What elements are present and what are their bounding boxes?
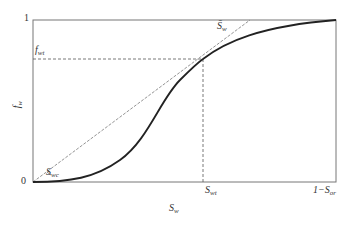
sor-prefix: 1−S xyxy=(313,184,330,195)
swc-label: Swc xyxy=(46,166,59,179)
sw-sub: w xyxy=(174,207,179,215)
swt-sub: wt xyxy=(210,189,217,197)
sw-bar-label: S̄w xyxy=(217,20,227,33)
swt-label: Swt xyxy=(205,184,217,197)
fw-sub: w xyxy=(16,101,24,106)
y-tick-zero: 0 xyxy=(21,175,26,186)
y-axis-label: fw xyxy=(11,101,24,108)
x-axis-label: Sw xyxy=(169,202,179,215)
y-tick-one: 1 xyxy=(24,12,29,23)
swbar-sub: w xyxy=(222,25,227,33)
fractional-flow-curve xyxy=(33,20,336,182)
plot-frame xyxy=(33,20,336,182)
fw-main: f xyxy=(11,105,22,108)
fwt-sub: wt xyxy=(38,49,45,57)
one-minus-sor-label: 1−Sor xyxy=(313,184,336,197)
fractional-flow-chart xyxy=(0,0,348,227)
swc-sub: wc xyxy=(51,171,59,179)
tangent-line xyxy=(33,20,250,182)
sor-sub: or xyxy=(330,189,336,197)
fwt-label: fwt xyxy=(35,44,44,57)
